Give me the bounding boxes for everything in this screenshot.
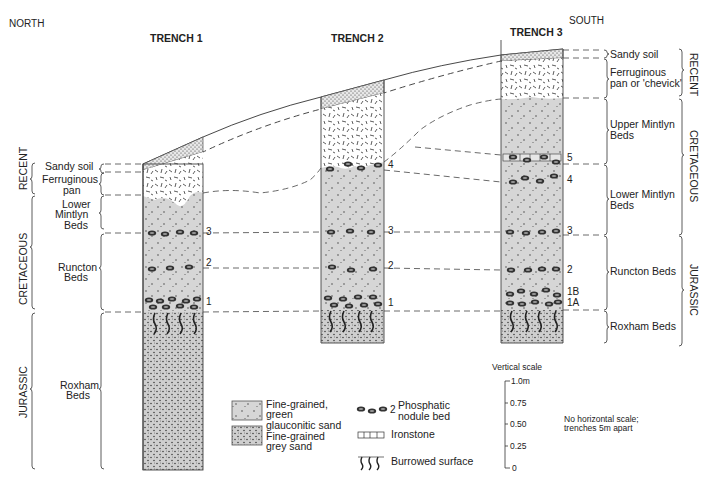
left-label-beds-3: Beds	[66, 389, 90, 401]
left-label-beds-2: Beds	[64, 271, 88, 283]
trench-1-title: TRENCH 1	[150, 32, 203, 44]
right-period-braces	[679, 49, 684, 346]
t3-nodule-4: 4	[567, 174, 573, 185]
right-label-sandy-soil: Sandy soil	[610, 48, 658, 60]
trench-3-title: TRENCH 3	[510, 26, 563, 38]
t3-nodule-1a: 1A	[567, 297, 580, 308]
left-label-beds-1: Beds	[64, 219, 88, 231]
south-label: SOUTH	[569, 15, 604, 26]
right-period-recent: RECENT	[688, 53, 700, 97]
legend-swatch-green-sand	[232, 401, 262, 420]
trench-2-title: TRENCH 2	[331, 32, 384, 44]
scale-title: Vertical scale	[492, 362, 542, 372]
scale-tick-025: 0.25	[510, 441, 527, 451]
legend-swatch-grey-sand	[232, 426, 262, 445]
legend: Fine-grained, green glauconitic sand Fin…	[232, 398, 473, 470]
right-label-beds-upper: Beds	[610, 129, 634, 141]
t3-nodule-3: 3	[567, 225, 573, 236]
legend-ironstone: Ironstone	[391, 428, 435, 440]
scale-tick-050: 0.50	[510, 419, 527, 429]
stratigraphic-section-diagram: NORTH SOUTH TRENCH 1 TRENCH 2 TRENCH 3 3…	[0, 0, 712, 487]
t2-nodule-4: 4	[388, 159, 394, 170]
right-label-roxham: Roxham Beds	[610, 320, 676, 332]
left-period-jurassic: JURASSIC	[17, 366, 29, 418]
legend-nodule-line2: nodule bed	[398, 410, 450, 422]
right-bed-labels: Sandy soil Ferruginous pan or 'chevick' …	[610, 48, 682, 332]
right-period-jurassic: JURASSIC	[688, 264, 700, 316]
legend-grey-sand-line2: grey sand	[266, 440, 312, 452]
right-label-runcton: Runcton Beds	[610, 265, 676, 277]
t1-nodule-3: 3	[206, 226, 212, 237]
scale-tick-1m: 1.0m	[511, 376, 530, 386]
right-label-pan-chevick: pan or 'chevick'	[610, 77, 682, 89]
left-period-recent: RECENT	[17, 146, 29, 190]
right-bed-braces	[604, 50, 609, 343]
scale-tick-0: 0	[512, 463, 517, 473]
t2-nodule-1: 1	[388, 297, 394, 308]
t3-nodule-5: 5	[567, 152, 573, 163]
scale-tick-075: 0.75	[510, 398, 527, 408]
t1-nodule-1: 1	[206, 296, 212, 307]
t3-nodule-1b: 1B	[567, 286, 580, 297]
trench-3-column: 5 4 3 2 1B 1A	[501, 40, 580, 343]
legend-burrowed: Burrowed surface	[391, 455, 473, 467]
trench-1-column: 3 2 1	[143, 137, 212, 470]
horizontal-scale-note-2: trenches 5m apart	[564, 423, 633, 433]
left-bed-labels: Sandy soil Ferruginous pan Lower Mintlyn…	[42, 160, 99, 401]
right-period-cretaceous: CRETACEOUS	[688, 130, 700, 202]
vertical-scale: Vertical scale 1.0m 0.75 0.50 0.25 0 No …	[492, 362, 639, 473]
left-label-sandy-soil: Sandy soil	[45, 160, 93, 172]
t2-nodule-3: 3	[388, 225, 394, 236]
left-label-pan: pan	[63, 184, 81, 196]
north-label: NORTH	[9, 18, 44, 29]
left-bed-braces	[99, 164, 104, 469]
nodule-icon	[357, 406, 387, 413]
ironstone-icon	[358, 432, 384, 438]
left-period-braces	[30, 163, 35, 469]
t2-nodule-2: 2	[388, 260, 394, 271]
trench-2-column: 4 3 2 1	[321, 80, 394, 343]
burrowed-surface-icon	[358, 457, 384, 470]
t3-nodule-2: 2	[567, 264, 573, 275]
t1-nodule-2: 2	[206, 257, 212, 268]
legend-nodule-number: 2	[390, 404, 396, 415]
left-period-cretaceous: CRETACEOUS	[17, 233, 29, 305]
right-label-beds-lower: Beds	[610, 199, 634, 211]
